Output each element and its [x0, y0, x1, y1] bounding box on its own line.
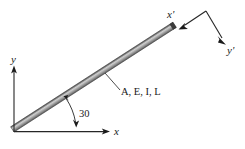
- global-y-label: y: [10, 53, 16, 65]
- global-x-label: x: [113, 125, 119, 137]
- local-x-axis: [179, 11, 207, 29]
- global-y-axis: [11, 66, 17, 133]
- beam-diagram-figure: 30 y x x' y' A, E, I, L: [0, 0, 245, 149]
- local-y-label: y': [226, 44, 235, 56]
- angle-indicator: [63, 95, 79, 127]
- global-x-axis: [14, 129, 110, 135]
- local-x-axis-line: [185, 11, 206, 25]
- diagram-canvas: 30 y x x' y' A, E, I, L: [0, 0, 245, 149]
- angle-label: 30: [79, 108, 90, 119]
- angle-arc-path: [66, 99, 76, 123]
- local-y-axis: [206, 11, 226, 45]
- beam-body: [11, 22, 177, 132]
- properties-leader-line: [105, 73, 120, 90]
- angle-arc-arrowhead-axis: [73, 120, 79, 128]
- beam-member: [11, 22, 177, 132]
- local-y-axis-line: [206, 11, 222, 38]
- local-x-label: x': [166, 8, 175, 20]
- beam-properties-label: A, E, I, L: [121, 86, 161, 97]
